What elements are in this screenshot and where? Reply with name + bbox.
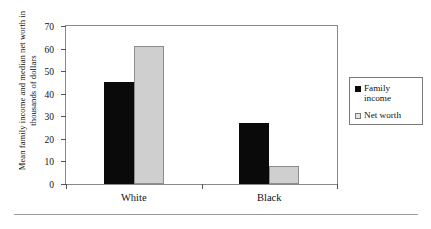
x-axis-category-label: White (121, 192, 147, 203)
y-axis-tick: 60 (61, 49, 66, 50)
legend-label-net-worth: Net worth (364, 110, 401, 120)
y-axis-tick-label: 40 (45, 90, 55, 100)
y-axis-tick-label: 50 (45, 67, 55, 77)
figure: Mean family income and median net worth … (0, 0, 431, 229)
legend-item-net-worth: Net worth (355, 110, 418, 120)
legend-swatch-family-income-icon (355, 86, 361, 92)
bar-white-net-worth (134, 46, 164, 184)
y-axis-tick: 30 (61, 116, 66, 117)
plot-inner: 010203040506070 (66, 26, 337, 184)
x-axis-tick (337, 184, 338, 189)
legend-label-family-income: Family income (364, 83, 418, 103)
y-axis-tick-label: 20 (45, 135, 55, 145)
y-axis-title-wrap: Mean family income and median net worth … (0, 0, 40, 205)
x-axis-tick (202, 184, 203, 189)
y-axis-tick: 20 (61, 139, 66, 140)
x-axis-tick (66, 184, 67, 189)
bottom-divider (14, 214, 418, 215)
y-axis-tick-label: 60 (45, 45, 55, 55)
bar-black-family-income (239, 123, 269, 184)
y-axis-tick-label: 0 (49, 180, 54, 190)
y-axis-tick: 40 (61, 94, 66, 95)
plot-area: 010203040506070 (65, 25, 338, 185)
y-axis-tick: 10 (61, 161, 66, 162)
x-axis-category-label: Black (257, 192, 282, 203)
y-axis-tick-label: 30 (45, 112, 55, 122)
y-axis-tick-label: 70 (45, 22, 55, 32)
legend-item-family-income: Family income (355, 83, 418, 103)
bar-white-family-income (104, 82, 134, 184)
y-axis-title: Mean family income and median net worth … (17, 2, 38, 180)
y-axis-tick-label: 10 (45, 157, 55, 167)
legend: Family income Net worth (349, 77, 423, 125)
legend-swatch-net-worth-icon (355, 113, 361, 119)
bar-black-net-worth (269, 166, 299, 184)
y-axis-tick: 50 (61, 71, 66, 72)
y-axis-tick: 70 (61, 26, 66, 27)
